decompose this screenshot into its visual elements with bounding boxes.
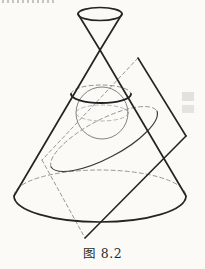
dandelin-sphere (76, 87, 128, 139)
dandelin-sphere-diagram (0, 0, 205, 269)
cutting-plane-hidden-edges (42, 58, 138, 238)
figure-page: 图 8.2 (0, 0, 205, 269)
upper-nappe-top-rim (78, 8, 122, 21)
figure-caption: 图 8.2 (0, 243, 205, 262)
lower-nappe-left-generator (14, 50, 100, 196)
lower-nappe-right-generator (100, 50, 186, 196)
cone-outline (14, 8, 186, 197)
